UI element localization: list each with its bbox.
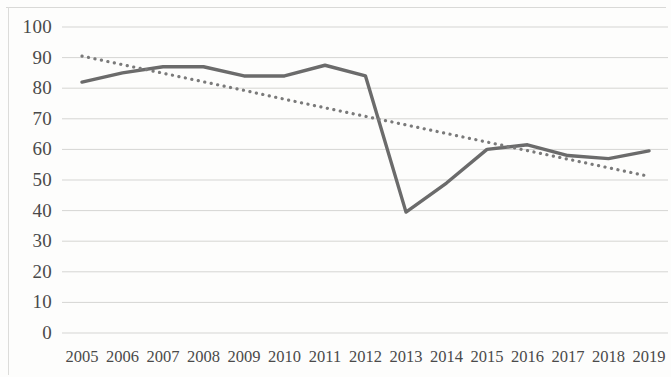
x-tick-label: 2018 <box>586 349 632 366</box>
y-tick-label: 70 <box>6 109 52 128</box>
x-tick-label: 2017 <box>545 349 591 366</box>
y-tick-label: 10 <box>6 292 52 311</box>
x-tick-label: 2016 <box>505 349 551 366</box>
x-tick-label: 2019 <box>626 349 671 366</box>
y-tick-label: 0 <box>6 323 52 342</box>
x-tick-label: 2011 <box>302 349 348 366</box>
x-tick-label: 2009 <box>221 349 267 366</box>
x-tick-label: 2014 <box>424 349 470 366</box>
x-tick-label: 2013 <box>383 349 429 366</box>
y-tick-label: 60 <box>6 139 52 158</box>
x-tick-label: 2007 <box>140 349 186 366</box>
y-tick-label: 20 <box>6 262 52 281</box>
series-line-linear-trendline <box>82 56 649 176</box>
y-tick-label: 80 <box>6 78 52 97</box>
y-tick-label: 30 <box>6 231 52 250</box>
y-tick-label: 40 <box>6 201 52 220</box>
x-tick-label: 2006 <box>100 349 146 366</box>
y-tick-label: 90 <box>6 48 52 67</box>
x-tick-label: 2010 <box>262 349 308 366</box>
chart-plot-area <box>0 0 671 377</box>
x-tick-label: 2012 <box>343 349 389 366</box>
x-tick-label: 2015 <box>464 349 510 366</box>
x-tick-label: 2005 <box>59 349 105 366</box>
series-line-data-series <box>82 65 649 212</box>
line-chart: 1009080706050403020100 20052006200720082… <box>0 0 671 377</box>
y-tick-label: 100 <box>6 17 52 36</box>
y-tick-label: 50 <box>6 170 52 189</box>
x-tick-label: 2008 <box>181 349 227 366</box>
